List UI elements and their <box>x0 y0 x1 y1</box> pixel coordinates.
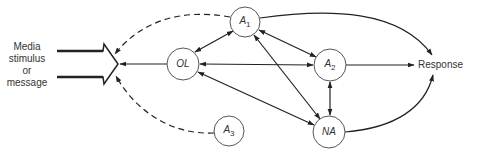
edge-na-to-response <box>345 75 433 132</box>
edge-a1-to-response <box>260 13 432 55</box>
edge-a1-ol <box>195 31 233 52</box>
node-na-name: NA <box>322 126 336 137</box>
node-ol-label: OL <box>167 58 199 70</box>
edge-ol-na <box>198 72 314 125</box>
input-label: Media stimulus or message <box>2 41 52 89</box>
input-arrow <box>57 44 118 84</box>
node-ol-name: OL <box>176 58 189 69</box>
node-a2-sub: 2 <box>331 63 335 72</box>
input-label-line-3: or <box>2 65 52 77</box>
input-label-line-1: Media <box>2 41 52 53</box>
edge-a1-to-stimulus <box>115 14 230 54</box>
input-label-line-4: message <box>2 77 52 89</box>
node-a2-label: A2 <box>314 58 346 74</box>
node-a1-label: A1 <box>229 15 261 31</box>
node-a3-sub: 3 <box>230 129 234 138</box>
edge-ol-a2 <box>200 64 313 65</box>
response-label: Response <box>418 59 463 71</box>
edge-a1-na <box>254 35 320 119</box>
edge-a3-to-stimulus <box>116 76 214 133</box>
node-na-label: NA <box>313 126 345 138</box>
node-a1-sub: 1 <box>246 20 250 29</box>
node-a3-label: A3 <box>213 124 245 140</box>
input-label-line-2: stimulus <box>2 53 52 65</box>
